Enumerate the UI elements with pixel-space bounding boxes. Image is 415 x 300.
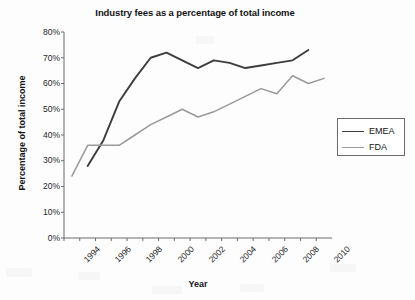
chart-figure: Industry fees as a percentage of total i…	[0, 0, 415, 300]
legend-label-emea: EMEA	[369, 126, 395, 136]
legend-item-emea[interactable]: EMEA	[342, 123, 395, 139]
legend-label-fda: FDA	[369, 142, 387, 152]
series-line-emea	[88, 50, 309, 166]
axis-lines	[64, 32, 332, 238]
legend: EMEA FDA	[337, 118, 405, 156]
legend-swatch-fda	[342, 147, 364, 148]
legend-item-fda[interactable]: FDA	[342, 139, 387, 155]
data-series-lines	[72, 50, 324, 176]
legend-swatch-emea	[342, 131, 364, 132]
